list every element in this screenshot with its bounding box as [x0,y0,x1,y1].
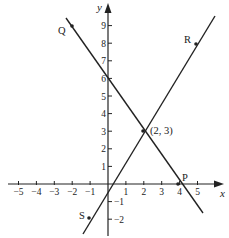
x-tick-label: −4 [31,187,41,197]
point-r [194,42,198,46]
y-tick-label: 1 [101,162,106,172]
x-tick-label: 3 [159,187,164,197]
point-r-label: R [184,34,191,45]
x-tick-label: 1 [124,187,129,197]
x-tick-label: −5 [13,187,23,197]
y-tick-label: 8 [101,39,106,49]
x-tick-label: −3 [49,187,59,197]
y-tick-label: 2 [101,144,106,154]
y-tick-label: 3 [101,127,106,137]
y-tick-label: −1 [114,197,124,207]
point-p [176,182,180,186]
x-tick-label: 4 [177,187,182,197]
x-tick-label: −1 [85,187,95,197]
point-q [70,24,74,28]
point-intersection [141,129,145,133]
y-tick-label: 9 [101,21,106,31]
y-tick-label: 7 [101,56,106,66]
y-axis-label: y [96,1,102,13]
point-s-label: S [79,210,85,221]
y-tick-label: 5 [101,92,106,102]
y-tick-label: −2 [114,215,124,225]
x-tick-label: 2 [141,187,146,197]
y-tick-label: 4 [101,109,106,119]
y-axis-arrow-icon [105,3,112,13]
intersection-label: (2, 3) [150,125,173,137]
point-p-label: P [182,172,188,183]
x-tick-label: −2 [67,187,77,197]
x-tick-label: 5 [195,187,200,197]
point-q-label: Q [58,25,66,36]
x-axis-label: x [219,187,225,199]
y-axis-ticks: −2−1123456789 [101,21,124,225]
point-s [87,216,91,220]
coordinate-graph: −5−4−3−2−112345 −2−1123456789 x y Q R S … [0,0,229,238]
